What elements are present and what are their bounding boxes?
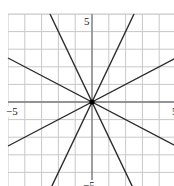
y-max-tick-label: 5 bbox=[84, 16, 90, 27]
line-chart bbox=[0, 0, 174, 186]
origin-point bbox=[89, 99, 94, 104]
y-min-tick-label: −5 bbox=[83, 180, 95, 186]
x-max-tick-label: 5 bbox=[172, 106, 174, 117]
x-min-tick-label: −5 bbox=[6, 106, 18, 117]
